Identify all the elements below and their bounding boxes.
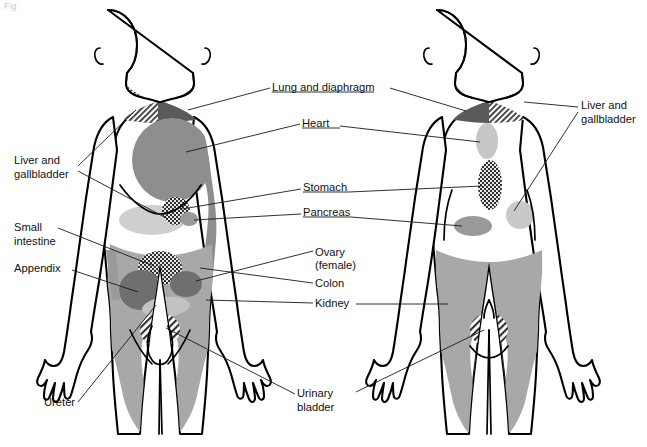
label-colon: Colon [315, 277, 344, 289]
label-ureter: Ureter [44, 396, 75, 408]
label-appendix: Appendix [14, 262, 61, 274]
zone-stomach-anterior-halo [180, 212, 198, 226]
zone-stomach-posterior [478, 160, 502, 210]
label-liver-gallbladder-right-line1: Liver and [581, 99, 627, 111]
label-pancreas: Pancreas [303, 206, 351, 218]
label-small-intestine-line2: intestine [14, 235, 56, 247]
label-ovary-line2: (female) [315, 259, 356, 271]
figure-corner-mark: Fig [4, 1, 17, 11]
label-stomach: Stomach [303, 181, 347, 193]
label-kidney: Kidney [315, 297, 350, 309]
referred-pain-figure: Lung and diaphragm Heart Stomach Pancrea… [0, 0, 647, 447]
label-small-intestine-line1: Small [14, 221, 42, 233]
zone-heart-posterior [476, 123, 498, 159]
zone-ovary-anterior-right [170, 271, 202, 297]
zone-liver-gallbladder-posterior-flank [506, 201, 534, 229]
label-liver-gallbladder-right-line2: gallbladder [581, 113, 636, 125]
label-liver-gallbladder-left-line2: gallbladder [14, 168, 69, 180]
label-lung-and-diaphragm: Lung and diaphragm [272, 81, 375, 93]
label-urinary-bladder-line2: bladder [297, 401, 335, 413]
label-ovary-line1: Ovary [315, 246, 345, 258]
label-liver-gallbladder-left-line1: Liver and [14, 154, 60, 166]
label-heart: Heart [302, 117, 330, 129]
figure-canvas: Lung and diaphragm Heart Stomach Pancrea… [0, 0, 647, 447]
label-urinary-bladder-line1: Urinary [297, 387, 333, 399]
